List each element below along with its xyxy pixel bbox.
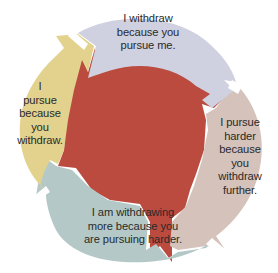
- label-right-segment: I pursue harder because you withdraw fur…: [208, 116, 272, 197]
- label-bottom-segment: I am withdrawing more because you are pu…: [68, 206, 198, 247]
- label-left-segment: I pursue because you withdraw.: [12, 80, 68, 148]
- label-top-segment: I withdraw because you pursue me.: [103, 12, 193, 53]
